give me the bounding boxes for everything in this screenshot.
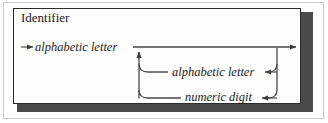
loop-feed-riser <box>268 48 277 98</box>
rail-label-alphabetic-letter-first: alphabetic letter <box>35 41 117 54</box>
loop-letter-rail-left <box>139 64 168 72</box>
loop-letter-rail-right <box>268 64 277 72</box>
syntax-diagram-figure: Identifier alphabeti <box>0 0 328 123</box>
loop-digit-rail-left <box>139 90 181 98</box>
rail-label-alphabetic-letter-loop: alphabetic letter <box>172 66 254 79</box>
rail-label-numeric-digit-loop: numeric digit <box>185 91 252 104</box>
railroad-rails <box>0 0 328 123</box>
